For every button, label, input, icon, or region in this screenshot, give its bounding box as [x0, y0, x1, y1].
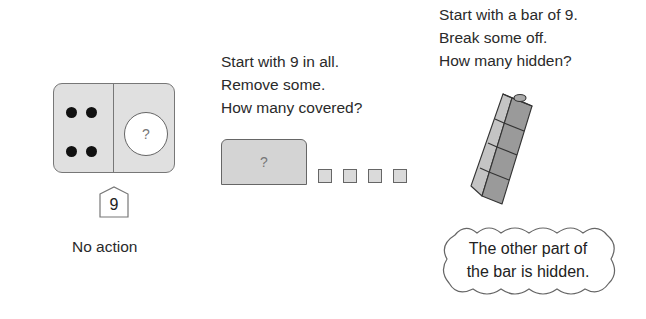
- counter-square: [343, 169, 357, 183]
- cloud-line: The other part of: [448, 237, 608, 260]
- prompt-line: Break some off.: [439, 27, 547, 49]
- counter-dot: [66, 146, 77, 157]
- cover-card: ?: [221, 139, 307, 185]
- unknown-part-label: ?: [142, 126, 150, 142]
- counter-dot: [86, 107, 97, 118]
- cloud-caption: The other part of the bar is hidden.: [448, 237, 608, 283]
- counter-square: [393, 169, 407, 183]
- counter-dot: [86, 146, 97, 157]
- counter-dot: [66, 107, 77, 118]
- prompt-line: Start with a bar of 9.: [439, 4, 578, 26]
- counter-square: [368, 169, 382, 183]
- counter-square: [318, 169, 332, 183]
- panel-caption-no-action: No action: [72, 236, 137, 258]
- mat-divider: [113, 83, 114, 173]
- cube-bar-icon: [465, 88, 545, 210]
- cloud-line: the bar is hidden.: [448, 260, 608, 283]
- unknown-part-circle: ?: [124, 112, 168, 156]
- prompt-line: Start with 9 in all.: [221, 51, 339, 73]
- cover-unknown-label: ?: [260, 154, 268, 170]
- prompt-line: Remove some.: [221, 74, 325, 96]
- prompt-line: How many covered?: [221, 97, 362, 119]
- prompt-line: How many hidden?: [439, 50, 572, 72]
- whole-number: 9: [99, 196, 129, 214]
